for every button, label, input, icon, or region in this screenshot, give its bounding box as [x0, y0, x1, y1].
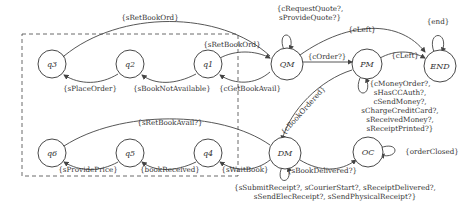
state-qm: QM [271, 48, 303, 80]
state-end: END [424, 50, 456, 82]
label-dm-loop-1: {sSubmitReceipt?, sCourierStart?, sRecei… [234, 183, 436, 192]
label-sRetBookAvail: {sRetBookAvail?} [137, 118, 202, 127]
label-end-loop: {end} [427, 17, 450, 26]
label-qm-loop-2: sProvideQuote?} [279, 13, 341, 22]
label-sWaitBook: {sWaitBook} [221, 165, 268, 174]
label-pm-loop: {cMoneyOrder?, sHasCCAuth?, cSendMoney?,… [361, 79, 438, 133]
edge-qm-q3 [64, 22, 270, 57]
svg-text:DM: DM [277, 149, 293, 158]
label-qm-loop-1: {cRequestQuote?, [277, 4, 343, 13]
svg-text:sReceiptPrinted?}: sReceiptPrinted?} [367, 124, 434, 133]
svg-text:q6: q6 [47, 149, 57, 158]
state-q4: q4 [194, 139, 222, 167]
edge-pm-loop [358, 78, 368, 93]
edge-q1-qm [220, 52, 270, 58]
svg-text:sHasCCAuth?,: sHasCCAuth?, [374, 88, 426, 97]
label-bookReceived: {bookReceived} [140, 165, 200, 174]
label-sProvidePrice: {sProvidePrice} [58, 165, 118, 174]
state-q3: q3 [38, 50, 66, 78]
label-sRetBookOrd-top: {sRetBookOrd} [121, 13, 179, 22]
edge-end-loop [432, 36, 443, 53]
svg-text:q3: q3 [47, 60, 57, 69]
label-cOrder: {cOrder?} [308, 52, 347, 61]
edge-pm-dm [282, 70, 352, 140]
label-cLeft-top: {cLeft} [348, 25, 376, 34]
edge-q2-q3 [64, 74, 118, 82]
state-machine-diagram: {sRetBookOrd} {sRetBookOrd} {cGetBookAva… [0, 0, 475, 208]
svg-text:q4: q4 [203, 149, 213, 158]
label-cLeft-pm: {cLeft} [391, 51, 419, 60]
label-sPlaceOrder: {sPlaceOrder} [63, 84, 117, 93]
label-cGetBookAvail: {cGetBookAvail} [219, 84, 281, 93]
svg-text:q5: q5 [125, 149, 135, 158]
label-sBookNotAvailable: {sBookNotAvailable} [133, 84, 211, 93]
label-dm-loop-2: sSendElecReceipt?, sSendPhysicalReceipt?… [254, 192, 416, 201]
state-dm: DM [269, 137, 301, 169]
label-orderClosed: {orderClosed} [405, 147, 459, 156]
state-q5: q5 [116, 139, 144, 167]
state-q6: q6 [38, 139, 66, 167]
edge-qm-q1 [220, 72, 270, 82]
svg-text:sReceivedMoney?,: sReceivedMoney?, [366, 115, 434, 124]
edge-q1-q2 [142, 74, 196, 82]
label-sBookDelivered: {sBookDelivered?} [287, 166, 357, 175]
state-q2: q2 [116, 50, 144, 78]
label-sRetBookOrd-q1: {sRetBookOrd} [203, 40, 261, 49]
svg-text:cSendMoney?,: cSendMoney?, [373, 97, 426, 106]
svg-text:END: END [429, 62, 450, 71]
svg-text:PM: PM [359, 60, 374, 69]
state-oc: OC [353, 137, 383, 167]
svg-text:{cMoneyOrder?,: {cMoneyOrder?, [370, 79, 431, 88]
label-cBookOrdered: {cBookOrdered} [279, 84, 327, 136]
svg-text:OC: OC [362, 148, 375, 157]
state-q1: q1 [194, 50, 222, 78]
state-pm: PM [352, 49, 382, 79]
svg-text:sChargeCreditCard?,: sChargeCreditCard?, [361, 106, 438, 115]
svg-text:q1: q1 [203, 60, 213, 69]
svg-text:q2: q2 [125, 60, 135, 69]
svg-text:QM: QM [280, 60, 296, 69]
